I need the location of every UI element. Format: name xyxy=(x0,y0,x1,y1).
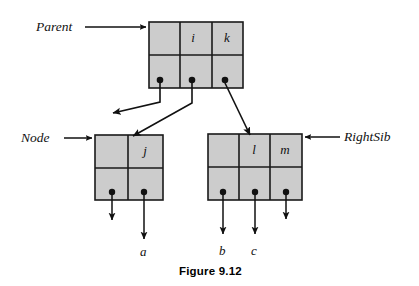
node-node xyxy=(95,135,163,200)
pointer-label-node: Node xyxy=(21,131,50,145)
node-key-j: j xyxy=(138,144,152,157)
leaf-label-c: c xyxy=(251,244,257,257)
rightsib-key-l: l xyxy=(247,143,261,156)
pointer-label-rightsib: RightSib xyxy=(344,130,391,144)
parent-child-arrow-2 xyxy=(225,83,250,135)
rightsib-key-m: m xyxy=(278,143,292,156)
parent-key-i: i xyxy=(186,31,200,44)
parent-pointer-dot-2 xyxy=(222,77,229,84)
leaf-label-a: a xyxy=(140,245,147,258)
leaf-label-b: b xyxy=(219,244,226,257)
parent-key-k: k xyxy=(220,31,234,44)
pointer-label-parent: Parent xyxy=(36,20,72,34)
figure-caption: Figure 9.12 xyxy=(179,265,242,277)
figure-9-12: Parent Node RightSib i k j l m a b c Fig… xyxy=(0,0,419,286)
